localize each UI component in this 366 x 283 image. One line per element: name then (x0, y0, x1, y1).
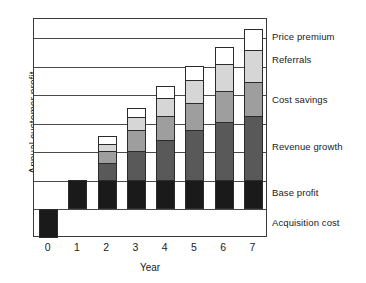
segment-revenue-growth (156, 140, 175, 180)
segment-base-profit (98, 180, 117, 209)
segment-acquisition-cost (39, 209, 58, 238)
x-tick-4: 4 (153, 241, 177, 253)
bar-year-2[interactable] (98, 19, 117, 209)
segment-base-profit (156, 180, 175, 209)
bar-year-7[interactable] (244, 19, 263, 209)
x-tick-6: 6 (211, 241, 235, 253)
segment-referrals (98, 144, 117, 151)
segment-cost-savings (244, 82, 263, 117)
segment-price-premium (215, 47, 234, 64)
x-tick-1: 1 (65, 241, 89, 253)
x-tick-5: 5 (182, 241, 206, 253)
zero-baseline (34, 209, 266, 210)
segment-revenue-growth (127, 151, 146, 181)
segment-revenue-growth (244, 116, 263, 180)
x-tick-3: 3 (123, 241, 147, 253)
category-label-base-profit: Base profit (272, 187, 319, 198)
segment-base-profit (244, 180, 263, 209)
bar-year-1[interactable] (68, 19, 87, 209)
segment-base-profit (185, 180, 204, 209)
chart-figure: Annual customer profit 01234567 Year Pri… (0, 0, 366, 283)
x-axis-title: Year (33, 262, 267, 273)
segment-referrals (185, 80, 204, 103)
segment-base-profit (215, 180, 234, 209)
plot-area (33, 18, 267, 237)
segment-base-profit (127, 180, 146, 209)
segment-referrals (156, 98, 175, 116)
bar-year-5[interactable] (185, 19, 204, 209)
segment-cost-savings (215, 91, 234, 122)
segment-price-premium (127, 108, 146, 118)
segment-price-premium (156, 86, 175, 98)
x-tick-0: 0 (36, 241, 60, 253)
bar-year-6[interactable] (215, 19, 234, 209)
segment-cost-savings (127, 130, 146, 150)
segment-referrals (127, 117, 146, 130)
segment-cost-savings (185, 103, 204, 130)
segment-referrals (244, 50, 263, 82)
segment-price-premium (185, 66, 204, 80)
segment-revenue-growth (185, 130, 204, 180)
segment-base-profit (68, 180, 87, 209)
category-label-revenue-growth: Revenue growth (272, 141, 343, 152)
segment-cost-savings (156, 116, 175, 140)
category-label-referrals: Referrals (272, 54, 311, 65)
bar-year-3[interactable] (127, 19, 146, 209)
segment-cost-savings (98, 151, 117, 163)
segment-referrals (215, 64, 234, 91)
segment-revenue-growth (98, 163, 117, 181)
segment-price-premium (98, 136, 117, 143)
bar-year-4[interactable] (156, 19, 175, 209)
category-label-acquisition-cost: Acquisition cost (272, 217, 340, 228)
segment-price-premium (244, 29, 263, 49)
x-tick-7: 7 (240, 241, 264, 253)
category-label-price-premium: Price premium (272, 31, 335, 42)
segment-revenue-growth (215, 122, 234, 180)
x-tick-2: 2 (94, 241, 118, 253)
category-label-cost-savings: Cost savings (272, 94, 328, 105)
